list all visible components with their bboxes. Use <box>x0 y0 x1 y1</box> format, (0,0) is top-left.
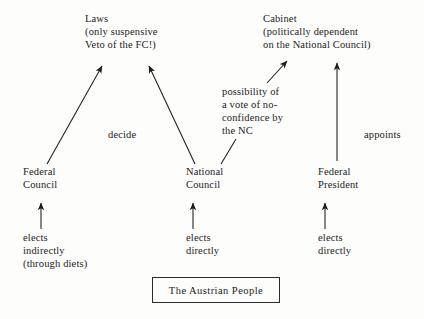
edge-label-no-confidence-line1: possibility of <box>222 85 279 98</box>
node-laws-line3: Veto of the FC!) <box>85 38 156 51</box>
node-cabinet-line3: on the National Council) <box>263 38 371 51</box>
node-austrian-people-box: The Austrian People <box>152 277 280 303</box>
edge-label-elects-directly-nc-line1: elects <box>186 231 211 244</box>
node-federal-council-line1: Federal <box>23 165 56 178</box>
node-cabinet-line1: Cabinet <box>263 12 297 25</box>
arrow-national-council-to-no-confidence-lower <box>221 139 236 164</box>
arrow-no-confidence-to-cabinet <box>267 61 287 83</box>
node-national-council-line2: Council <box>186 178 220 191</box>
edge-label-elects-indirectly-line2: indirectly <box>23 244 65 257</box>
node-laws-line1: Laws <box>85 12 108 25</box>
edge-label-no-confidence-line3: confidence by <box>222 111 283 124</box>
political-system-diagram: Laws (only suspensive Veto of the FC!) C… <box>0 0 424 319</box>
node-austrian-people-label: The Austrian People <box>153 278 279 302</box>
edge-label-elects-directly-fp-line2: directly <box>318 244 351 257</box>
edge-label-no-confidence-line4: the NC <box>222 124 253 137</box>
edge-label-elects-indirectly-line1: elects <box>23 231 48 244</box>
edge-label-no-confidence-line2: a vote of no- <box>222 98 277 111</box>
arrow-national-council-to-laws <box>149 66 195 164</box>
node-national-council-line1: National <box>186 165 223 178</box>
node-federal-president-line2: President <box>318 178 358 191</box>
edge-label-elects-indirectly-line3: (through diets) <box>23 257 87 270</box>
edge-label-elects-directly-nc-line2: directly <box>186 244 219 257</box>
arrow-federal-council-to-laws <box>47 66 102 164</box>
node-laws-line2: (only suspensive <box>85 25 158 38</box>
node-cabinet-line2: (politically dependent <box>263 25 358 38</box>
node-federal-council-line2: Council <box>23 178 57 191</box>
edge-label-decide: decide <box>108 128 136 141</box>
edge-label-appoints: appoints <box>364 128 401 141</box>
edge-label-elects-directly-fp-line1: elects <box>318 231 343 244</box>
node-federal-president-line1: Federal <box>318 165 351 178</box>
